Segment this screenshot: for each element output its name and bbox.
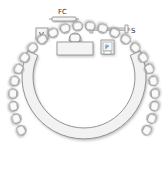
chair xyxy=(9,101,19,112)
chair xyxy=(149,101,159,112)
chair xyxy=(47,27,60,39)
room-diagram: FC S V P xyxy=(0,0,168,181)
chair xyxy=(10,75,21,87)
screen-label: S xyxy=(131,27,136,35)
chair xyxy=(15,124,28,137)
chair xyxy=(147,75,158,87)
chair xyxy=(97,23,109,34)
chair xyxy=(72,22,83,32)
flip-chart-label: FC xyxy=(58,8,67,16)
chair xyxy=(140,124,153,137)
chair xyxy=(150,88,159,98)
podium: P xyxy=(101,40,114,54)
horseshoe-table xyxy=(22,51,146,139)
podium-label: P xyxy=(105,43,109,50)
chair xyxy=(145,112,157,124)
flip-chart: FC xyxy=(49,8,79,21)
head-table-chair xyxy=(69,33,81,42)
chair xyxy=(11,112,23,124)
chair xyxy=(59,23,71,34)
head-table xyxy=(57,42,93,55)
chair xyxy=(9,88,18,98)
chair xyxy=(119,33,132,46)
